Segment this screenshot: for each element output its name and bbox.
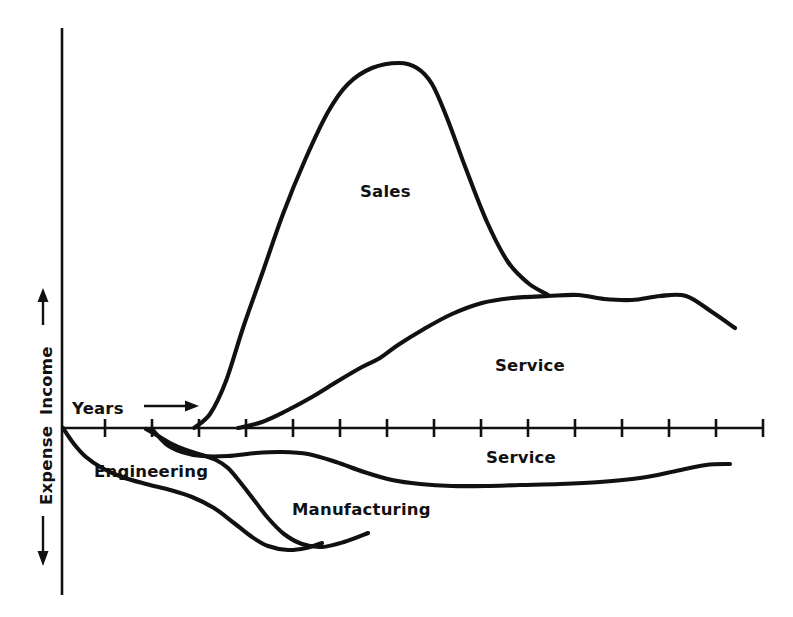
chart-figure: Sales Service Engineering Manufacturing … [0,0,793,617]
years-arrow-icon [144,401,199,412]
axis-labels-group: Income Expense Years [37,346,124,505]
curve-labels-group: Sales Service Engineering Manufacturing … [94,182,565,519]
manufacturing-label: Manufacturing [292,500,431,519]
income-axis-label: Income [37,346,56,415]
service-income-curve [238,295,735,428]
service-expense-label: Service [486,448,556,467]
expense-axis-label: Expense [37,426,56,505]
lifecycle-cashflow-chart: Sales Service Engineering Manufacturing … [0,0,793,617]
sales-label: Sales [360,182,411,201]
service-income-label: Service [495,356,565,375]
expense-arrow-icon [38,516,49,566]
years-axis-label: Years [71,399,124,418]
income-arrow-icon [38,288,49,325]
engineering-label: Engineering [94,462,208,481]
manufacturing-curve [146,429,368,547]
